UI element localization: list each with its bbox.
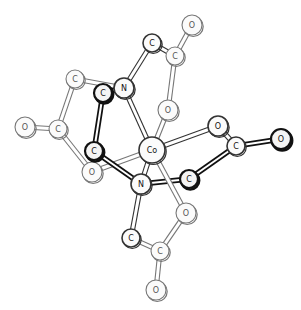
- atom-O2: O: [158, 100, 179, 122]
- atom-O5: O: [271, 129, 292, 151]
- atom-C5: C: [49, 120, 68, 140]
- atom-label: C: [55, 125, 61, 134]
- molecule-diagram: OCCOOCOOCOCNOCoCNCCCOC: [0, 0, 301, 310]
- atom-label: O: [183, 209, 189, 218]
- atom-label: O: [215, 122, 221, 131]
- atom-label: N: [121, 84, 127, 93]
- atom-label: O: [189, 21, 195, 30]
- atom-label: C: [172, 52, 178, 61]
- atom-N1: N: [114, 78, 135, 100]
- atom-C2: C: [166, 47, 185, 67]
- atom-O3: O: [15, 117, 36, 139]
- atom-label: Co: [147, 146, 158, 155]
- atom-label: N: [138, 180, 144, 189]
- atom-O6: O: [82, 162, 103, 184]
- atom-label: C: [233, 142, 239, 151]
- atom-O4: O: [208, 116, 229, 138]
- atom-label: C: [186, 175, 192, 184]
- atom-label: C: [128, 234, 134, 243]
- atom-label: O: [165, 106, 171, 115]
- atom-label: C: [91, 147, 97, 156]
- atom-label: O: [278, 135, 284, 144]
- atom-C9: C: [122, 229, 141, 249]
- atom-label: O: [153, 286, 159, 295]
- atom-C10: C: [151, 242, 170, 262]
- atom-C7: C: [227, 137, 246, 157]
- atom-O7: O: [176, 203, 197, 225]
- atom-C3: C: [66, 70, 85, 90]
- atom-label: O: [22, 123, 28, 132]
- atom-N2: N: [131, 174, 152, 196]
- atom-label: C: [72, 75, 78, 84]
- atom-Co: Co: [139, 137, 166, 165]
- atom-C4: C: [94, 84, 113, 104]
- atom-label: C: [100, 89, 106, 98]
- atom-label: C: [157, 247, 163, 256]
- atom-C1: C: [143, 34, 162, 54]
- atom-label: C: [149, 39, 155, 48]
- atom-O8: O: [146, 280, 167, 302]
- atom-O1: O: [182, 15, 203, 37]
- atom-C8: C: [180, 170, 199, 190]
- atom-label: O: [89, 168, 95, 177]
- atom-C6: C: [85, 142, 104, 162]
- atoms-layer: OCCOOCOOCOCNOCoCNCCCOC: [15, 15, 292, 302]
